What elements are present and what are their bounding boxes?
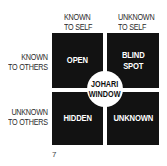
label-line: BLIND	[122, 50, 145, 61]
label-line: TO SELF	[118, 22, 154, 32]
quadrant-label: BLINDSPOT	[122, 50, 145, 72]
row-label-known-to-others: KNOWN TO OTHERS	[8, 52, 48, 72]
row-label-unknown-to-others: UNKNOWN TO OTHERS	[8, 107, 48, 127]
label-line: KNOWN	[64, 12, 92, 22]
label-line: TO OTHERS	[8, 62, 48, 72]
label-line: KNOWN	[8, 52, 48, 62]
label-line: TO OTHERS	[8, 117, 48, 127]
quadrant-label: HIDDEN	[63, 113, 91, 124]
quadrant-label: UNKNOWN	[113, 113, 153, 124]
label-line: TO SELF	[64, 22, 92, 32]
column-label-unknown-to-self: UNKNOWN TO SELF	[118, 12, 154, 32]
label-line: JOHARI	[89, 79, 121, 89]
column-label-known-to-self: KNOWN TO SELF	[64, 12, 92, 32]
label-line: UNKNOWN	[8, 107, 48, 117]
label-line: UNKNOWN	[118, 12, 154, 22]
center-title: JOHARIWINDOW	[89, 79, 121, 99]
page-number: 7	[52, 150, 56, 159]
quadrant-label: OPEN	[67, 55, 88, 66]
label-line: SPOT	[122, 61, 145, 72]
label-line: WINDOW	[89, 89, 121, 99]
center-circle: JOHARIWINDOW	[87, 71, 123, 107]
